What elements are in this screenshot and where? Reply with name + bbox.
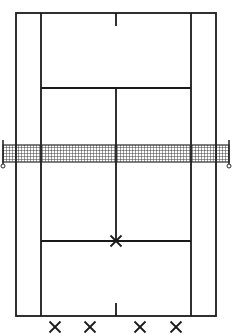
net-post-right-base <box>227 164 231 168</box>
x-marker-icon <box>50 322 61 333</box>
player-markers <box>50 236 182 333</box>
x-marker-icon <box>171 322 182 333</box>
court-lines <box>16 13 216 316</box>
x-marker-icon <box>85 322 96 333</box>
tennis-court-diagram <box>0 0 233 336</box>
x-marker-icon <box>135 322 146 333</box>
net-post-left-base <box>1 164 5 168</box>
